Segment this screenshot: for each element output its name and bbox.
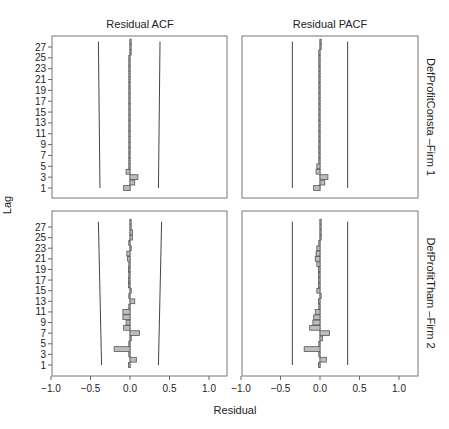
bar-lag-18 [129, 93, 130, 98]
bar-lag-10 [319, 137, 320, 142]
bar-lag-8 [319, 148, 320, 153]
col-title-pacf: Residual PACF [293, 18, 368, 30]
bar-lag-6 [130, 336, 131, 341]
y-tick-label: 5 [40, 338, 46, 349]
bar-lag-3 [319, 352, 320, 357]
x-tick-label: −0.5 [81, 383, 101, 394]
bar-lag-12 [129, 126, 130, 131]
bar-lag-19 [319, 88, 320, 93]
bar-lag-27 [320, 45, 321, 50]
x-tick-label: 0.0 [313, 383, 327, 394]
bar-lag-15 [319, 110, 320, 115]
bar-lag-13 [129, 120, 130, 125]
y-tick-label: 15 [35, 285, 47, 296]
bar-lag-13 [319, 120, 320, 125]
y-tick-label: 23 [35, 63, 47, 74]
x-tick-label: 0.5 [353, 383, 367, 394]
bar-lag-6 [129, 158, 130, 163]
bar-lag-4 [114, 347, 130, 352]
bar-lag-16 [318, 283, 320, 288]
x-tick-label: −1.0 [41, 383, 61, 394]
bar-lag-12 [319, 126, 320, 131]
bar-lag-11 [319, 131, 320, 136]
bar-lag-23 [319, 66, 320, 71]
bar-lag-24 [129, 61, 130, 66]
bar-lag-14 [319, 115, 320, 120]
bar-lag-26 [319, 50, 320, 55]
y-tick-label: 3 [40, 349, 46, 360]
bar-lag-20 [129, 83, 130, 88]
y-tick-label: 19 [35, 264, 47, 275]
bar-lag-26 [130, 230, 132, 235]
bar-lag-17 [129, 99, 130, 104]
bar-lag-25 [130, 235, 132, 240]
bar-lag-7 [129, 153, 130, 158]
bar-lag-22 [127, 251, 130, 256]
y-tick-label: 21 [35, 253, 47, 264]
col-title-acf: Residual ACF [106, 18, 174, 30]
y-tick-label: 3 [40, 172, 46, 183]
y-tick-label: 27 [35, 42, 47, 53]
bar-lag-22 [316, 251, 320, 256]
bar-lag-26 [130, 50, 131, 55]
x-tick-label: 1.0 [202, 383, 216, 394]
bar-lag-13 [318, 299, 320, 304]
bar-lag-4 [316, 169, 320, 174]
conf-band-lower [98, 42, 100, 188]
bar-lag-20 [317, 262, 320, 267]
bar-lag-25 [319, 55, 320, 60]
bar-lag-27 [130, 225, 131, 230]
y-tick-label: 11 [36, 306, 47, 317]
bar-lag-20 [319, 83, 320, 88]
bar-lag-3 [130, 175, 138, 180]
y-tick-label: 9 [40, 139, 46, 150]
bar-lag-8 [310, 325, 320, 330]
bar-lag-3 [129, 352, 130, 357]
bar-lag-14 [129, 294, 130, 299]
bar-lag-18 [129, 272, 130, 277]
bar-lag-9 [319, 142, 320, 147]
y-tick-label: 17 [35, 96, 47, 107]
bar-lag-19 [129, 88, 130, 93]
bar-lag-5 [317, 164, 320, 169]
bar-lag-23 [317, 246, 320, 251]
x-tick-label: 0.5 [163, 383, 177, 394]
bar-lag-11 [315, 310, 320, 315]
svg-text:DefProfitTham –Firm 2: DefProfitTham –Firm 2 [425, 237, 437, 348]
y-tick-label: 1 [40, 360, 46, 371]
acf-pacf-chart: Residual ACF Residual PACF DefProfitCons… [0, 0, 449, 429]
y-tick-label: 25 [35, 52, 47, 63]
bar-lag-10 [314, 315, 320, 320]
y-tick-label: 19 [35, 85, 47, 96]
panel-2 [242, 36, 418, 198]
y-tick-label: 9 [40, 317, 46, 328]
bar-lag-25 [320, 235, 321, 240]
bar-lag-24 [129, 241, 130, 246]
y-tick-label: 25 [35, 232, 47, 243]
y-tick-label: 1 [40, 183, 46, 194]
bar-lag-2 [320, 357, 326, 362]
bar-lag-8 [124, 325, 130, 330]
bar-lag-28 [130, 219, 131, 224]
y-tick-label: 21 [35, 74, 47, 85]
bar-lag-2 [130, 180, 135, 185]
bar-lag-15 [129, 110, 130, 115]
bar-lag-17 [318, 278, 320, 283]
y-tick-label: 7 [40, 150, 46, 161]
bar-lag-1 [128, 363, 130, 368]
bar-lag-18 [318, 272, 320, 277]
bar-lag-12 [319, 304, 320, 309]
bar-lag-25 [129, 55, 130, 60]
bar-lag-19 [128, 267, 130, 272]
bar-lag-21 [129, 77, 130, 82]
bar-lag-14 [320, 294, 321, 299]
bar-lag-10 [129, 137, 130, 142]
bar-lag-22 [319, 72, 320, 77]
bar-lag-17 [319, 99, 320, 104]
y-tick-label: 13 [35, 117, 47, 128]
row-title-firm2: DefProfitTham –Firm 2 [425, 237, 437, 348]
bar-lag-9 [129, 142, 130, 147]
bar-lag-10 [123, 315, 130, 320]
y-axis-label: Lag [1, 196, 13, 214]
bar-lag-27 [130, 45, 131, 50]
